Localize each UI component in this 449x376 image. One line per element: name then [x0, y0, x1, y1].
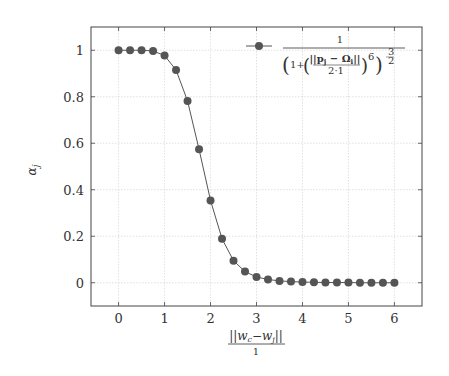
- svg-text:6: 6: [368, 51, 374, 62]
- data-point: [310, 278, 318, 286]
- data-point: [264, 275, 272, 283]
- legend-marker-icon: [255, 42, 263, 50]
- y-tick-label: 0.6: [63, 136, 84, 151]
- svg-text:): ): [375, 53, 383, 77]
- svg-text:2: 2: [388, 55, 394, 66]
- grid: [91, 27, 422, 306]
- chart: 012345600.20.40.60.81 αj ||wc−wj|| 1 1 (…: [0, 0, 449, 376]
- legend-numerator: 1: [337, 34, 343, 45]
- x-axis-label: ||wc−wj|| 1: [228, 329, 285, 357]
- x-tick-label: 4: [298, 311, 306, 326]
- data-point: [253, 273, 261, 281]
- data-point: [344, 279, 352, 287]
- data-point: [390, 279, 398, 287]
- y-tick-label: 1: [76, 43, 84, 58]
- svg-text:1: 1: [253, 346, 259, 357]
- data-point: [298, 278, 306, 286]
- data-point: [241, 268, 249, 276]
- data-point: [138, 46, 146, 54]
- y-tick-label: 0.8: [63, 90, 84, 105]
- data-point: [195, 145, 203, 153]
- data-point: [149, 47, 157, 55]
- data-point: [230, 257, 238, 265]
- svg-text:2·1: 2·1: [328, 65, 344, 76]
- svg-text:||wc−wj||: ||wc−wj||: [229, 329, 283, 344]
- data-point: [161, 52, 169, 60]
- svg-text:(: (: [282, 53, 290, 77]
- x-tick-label: 1: [160, 311, 168, 326]
- y-tick-label: 0: [76, 276, 84, 291]
- data-point: [184, 97, 192, 105]
- data-point: [333, 279, 341, 287]
- y-tick-label: 0.2: [63, 229, 84, 244]
- data-point: [367, 279, 375, 287]
- svg-text:): ): [361, 55, 368, 76]
- y-axis-label: αj: [25, 164, 41, 175]
- x-tick-label: 2: [206, 311, 214, 326]
- x-tick-label: 5: [344, 311, 352, 326]
- data-point: [172, 66, 180, 74]
- legend: 1 ( 1+ ( ||pj − Ωi|| 2·1 ) 6 ) 3 2: [246, 34, 405, 77]
- data-point: [275, 277, 283, 285]
- data-point: [115, 46, 123, 54]
- data-point: [379, 279, 387, 287]
- data-point: [321, 279, 329, 287]
- x-tick-label: 0: [114, 311, 122, 326]
- data-point: [126, 46, 134, 54]
- data-point: [207, 196, 215, 204]
- data-point: [287, 278, 295, 286]
- data-point: [218, 235, 226, 243]
- data-point: [356, 279, 364, 287]
- x-tick-label: 6: [390, 311, 398, 326]
- x-tick-label: 3: [252, 311, 260, 326]
- y-tick-label: 0.4: [63, 183, 84, 198]
